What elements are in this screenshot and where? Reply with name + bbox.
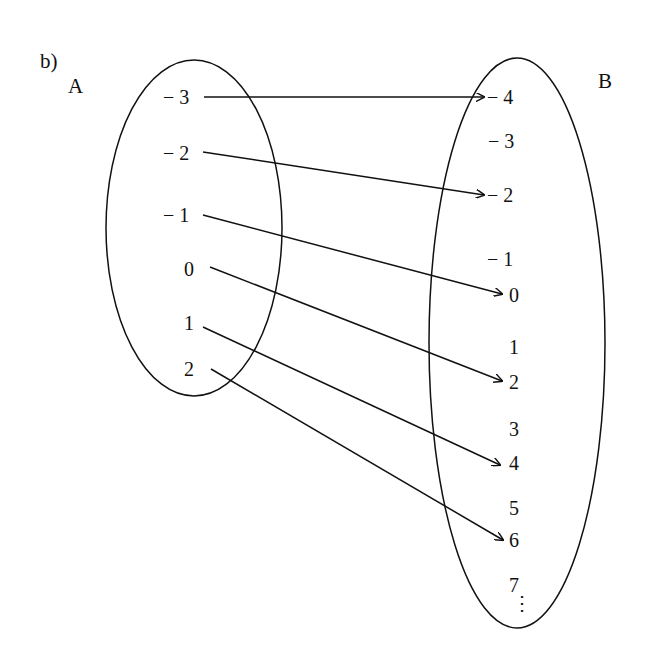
mapping-arrows: [203, 97, 503, 540]
set-a-element: − 1: [163, 204, 189, 226]
set-a-element: 2: [184, 358, 194, 380]
set-b-element: − 2: [487, 184, 513, 206]
set-b-element: 3: [509, 418, 519, 440]
set-b-element: 5: [509, 497, 519, 519]
set-b-element: − 4: [487, 86, 513, 108]
set-b-element: − 3: [488, 130, 514, 152]
set-b-element: 2: [509, 371, 519, 393]
part-label: b): [40, 49, 58, 73]
mapping-arrow: [203, 327, 500, 465]
set-b-element: 4: [509, 452, 519, 474]
set-b-element: ⋮: [512, 592, 532, 614]
mapping-arrow: [210, 267, 502, 381]
arrow-diagram: b) A B − 3 − 2 − 1 0 1 2 − 4 − 3 − 2 − 1…: [0, 0, 663, 667]
mapping-arrow: [211, 369, 503, 540]
set-b-element: − 1: [487, 248, 513, 270]
set-b-element: 1: [509, 336, 519, 358]
mapping-arrow: [203, 152, 484, 195]
set-a-element: 0: [184, 258, 194, 280]
set-a-element: − 2: [163, 142, 189, 164]
set-a-element: − 3: [163, 86, 189, 108]
set-a-ellipse: [106, 60, 282, 396]
set-a-label: A: [68, 74, 84, 98]
set-b-element: 0: [509, 284, 519, 306]
set-a-elements: − 3 − 2 − 1 0 1 2: [163, 86, 194, 380]
set-a-element: 1: [184, 312, 194, 334]
set-b-label: B: [598, 69, 612, 93]
set-b-element: 6: [509, 529, 519, 551]
